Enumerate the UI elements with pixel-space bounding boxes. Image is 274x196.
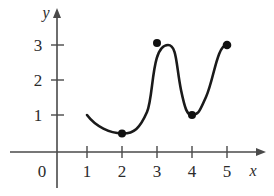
x-tick-label-3: 3 <box>153 162 162 181</box>
x-tick-label-2: 2 <box>118 162 127 181</box>
x-tick-label-1: 1 <box>83 162 92 181</box>
x-tick-label-5: 5 <box>223 162 232 181</box>
point-local-min-x2 <box>118 130 126 138</box>
y-axis <box>53 8 61 188</box>
function-curve <box>87 45 227 134</box>
y-tick-label-3: 3 <box>34 36 43 55</box>
y-axis-arrow-icon <box>53 8 61 18</box>
y-tick-label-2: 2 <box>34 71 43 90</box>
graph-figure: 1 2 3 4 5 1 2 3 0 y x <box>0 0 274 196</box>
point-local-min-x4 <box>188 111 196 119</box>
x-axis-label: x <box>248 162 256 179</box>
point-endpoint-x5 <box>223 41 232 50</box>
point-local-max-x3 <box>153 39 161 47</box>
origin-label: 0 <box>38 162 47 181</box>
x-axis-arrow-icon <box>256 148 266 156</box>
y-axis-label: y <box>40 4 50 22</box>
y-tick-label-1: 1 <box>34 106 43 125</box>
x-tick-label-4: 4 <box>188 162 197 181</box>
coordinate-plot: 1 2 3 4 5 1 2 3 0 y x <box>0 0 274 196</box>
